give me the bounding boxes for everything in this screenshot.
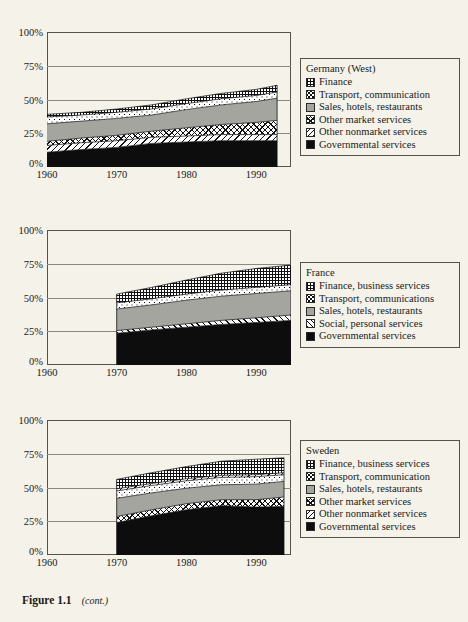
legend-title: France: [306, 266, 454, 279]
solid-gray-swatch: [306, 485, 315, 494]
legend-item: Transport, communication: [306, 471, 454, 484]
x-tick-label: 1960: [37, 557, 58, 568]
solid-black-swatch: [306, 522, 315, 531]
legend-item-label: Transport, communication: [319, 471, 430, 484]
y-tick-label: 75%: [24, 448, 43, 459]
x-tick-label: 1990: [246, 367, 267, 378]
legend-germany: Germany (West) FinanceTransport, communi…: [300, 58, 460, 156]
legend-item-label: Governmental services: [319, 330, 416, 343]
legend-item-label: Sales, hotels, restaurants: [319, 101, 422, 114]
legend-france: France Finance, business servicesTranspo…: [300, 262, 460, 348]
plot-canvas: [47, 420, 291, 555]
legend-item: Finance: [306, 76, 454, 89]
y-tick-label: 25%: [24, 326, 43, 337]
x-tick-label: 1980: [176, 367, 197, 378]
solid-gray-swatch: [306, 103, 315, 112]
crosshatch-pattern-swatch: [306, 497, 315, 506]
legend-item-label: Other market services: [319, 496, 411, 509]
y-tick-label: 50%: [24, 482, 43, 493]
legend-item: Transport, communications: [306, 293, 454, 306]
plot-area-sweden: 100% 75% 50% 25% 0% 1960 1970 1980 1990: [47, 420, 291, 555]
x-tick-label: 1970: [106, 557, 127, 568]
y-tick-label: 50%: [24, 292, 43, 303]
dot-pattern-swatch: [306, 294, 315, 303]
legend-item: Other nonmarket services: [306, 126, 454, 139]
y-tick-label: 25%: [24, 516, 43, 527]
diagonal-hatch-swatch: [306, 319, 315, 328]
x-tick-label: 1980: [176, 169, 197, 180]
solid-black-swatch: [306, 332, 315, 341]
plot-area-germany: 100% 75% 50% 25% 0% 1960 1970 1980 1990: [47, 32, 291, 167]
y-tick-label: 0%: [29, 546, 43, 557]
diagonal-hatch-swatch: [306, 128, 315, 137]
plot-canvas: [47, 32, 291, 167]
figure-caption: Figure 1.1(cont.): [22, 594, 108, 606]
y-tick-label: 100%: [19, 225, 44, 236]
y-tick-label: 0%: [29, 158, 43, 169]
plot-canvas: [47, 230, 291, 365]
legend-item: Governmental services: [306, 330, 454, 343]
x-tick-label: 1980: [176, 557, 197, 568]
legend-rows: FinanceTransport, communicationSales, ho…: [306, 76, 454, 151]
legend-item-label: Sales, hotels, restaurants: [319, 483, 422, 496]
legend-item: Governmental services: [306, 139, 454, 152]
chart-sweden: 100% 75% 50% 25% 0% 1960 1970 1980 1990 …: [0, 412, 468, 592]
legend-item-label: Other nonmarket services: [319, 508, 427, 521]
x-tick-label: 1990: [246, 169, 267, 180]
legend-item: Finance, business services: [306, 280, 454, 293]
grid-pattern-swatch: [306, 282, 315, 291]
y-tick-label: 50%: [24, 94, 43, 105]
legend-item-label: Other nonmarket services: [319, 126, 427, 139]
legend-item-label: Governmental services: [319, 139, 416, 152]
x-tick-label: 1960: [37, 367, 58, 378]
y-tick-label: 75%: [24, 258, 43, 269]
figure-caption-label: Figure 1.1: [22, 594, 72, 606]
grid-pattern-swatch: [306, 78, 315, 87]
legend-item-label: Governmental services: [319, 521, 416, 534]
y-tick-label: 100%: [19, 415, 44, 426]
series-outlines: [47, 230, 291, 365]
legend-item: Other market services: [306, 496, 454, 509]
legend-rows: Finance, business servicesTransport, com…: [306, 458, 454, 533]
legend-item: Sales, hotels, restaurants: [306, 305, 454, 318]
legend-item-label: Sales, hotels, restaurants: [319, 305, 422, 318]
x-tick-label: 1990: [246, 557, 267, 568]
legend-item: Transport, communication: [306, 89, 454, 102]
dot-pattern-swatch: [306, 90, 315, 99]
x-tick-label: 1960: [37, 169, 58, 180]
legend-item: Other market services: [306, 114, 454, 127]
y-tick-label: 100%: [19, 27, 44, 38]
legend-item: Social, personal services: [306, 318, 454, 331]
legend-item-label: Transport, communications: [319, 293, 434, 306]
solid-gray-swatch: [306, 307, 315, 316]
legend-item-label: Finance, business services: [319, 458, 430, 471]
legend-item-label: Social, personal services: [319, 318, 423, 331]
legend-item-label: Transport, communication: [319, 89, 430, 102]
legend-title: Sweden: [306, 444, 454, 457]
chart-france: 100% 75% 50% 25% 0% 1960 1970 1980 1990 …: [0, 222, 468, 402]
series-outlines: [47, 32, 291, 167]
diagonal-hatch-swatch: [306, 510, 315, 519]
legend-rows: Finance, business servicesTransport, com…: [306, 280, 454, 343]
legend-item: Finance, business services: [306, 458, 454, 471]
solid-black-swatch: [306, 140, 315, 149]
legend-item-label: Finance, business services: [319, 280, 430, 293]
figure-caption-note: (cont.): [82, 595, 108, 606]
legend-item: Other nonmarket services: [306, 508, 454, 521]
grid-pattern-swatch: [306, 460, 315, 469]
y-tick-label: 25%: [24, 128, 43, 139]
figure-page: 100% 75% 50% 25% 0% 1960 1970 1980 1990 …: [0, 0, 468, 622]
crosshatch-pattern-swatch: [306, 115, 315, 124]
x-tick-label: 1970: [106, 367, 127, 378]
y-tick-label: 75%: [24, 60, 43, 71]
legend-title: Germany (West): [306, 62, 454, 75]
chart-germany: 100% 75% 50% 25% 0% 1960 1970 1980 1990 …: [0, 24, 468, 204]
legend-item-label: Other market services: [319, 114, 411, 127]
legend-item: Sales, hotels, restaurants: [306, 483, 454, 496]
y-tick-label: 0%: [29, 356, 43, 367]
legend-item: Sales, hotels, restaurants: [306, 101, 454, 114]
series-outlines: [47, 420, 291, 555]
dot-pattern-swatch: [306, 472, 315, 481]
x-tick-label: 1970: [106, 169, 127, 180]
legend-item-label: Finance: [319, 76, 352, 89]
